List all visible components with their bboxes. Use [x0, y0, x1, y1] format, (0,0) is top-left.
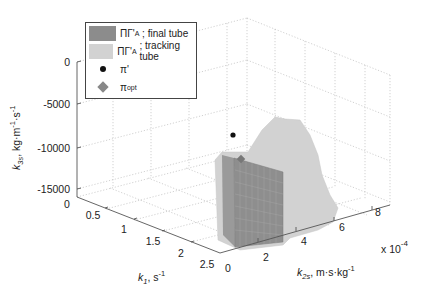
svg-text:-5000: -5000 — [43, 98, 70, 110]
svg-text:6: 6 — [339, 221, 345, 233]
legend-text: ; final tube — [142, 28, 188, 39]
svg-text:1.5: 1.5 — [146, 235, 161, 247]
legend-item-pi-prime: π' — [89, 60, 129, 78]
legend-item-tracking-tube: ΠΓ'A ; tracking tube — [89, 42, 196, 60]
plot-area: 0 -5000 -10000 -15000 0 0.5 1 1.5 2 2.5 … — [0, 0, 426, 299]
svg-text:0: 0 — [64, 198, 70, 210]
svg-text:2: 2 — [178, 247, 184, 259]
legend: ΠΓ'A ; final tube ΠΓ'A ; tracking tube π… — [85, 22, 197, 99]
svg-text:-15000: -15000 — [37, 183, 70, 195]
y-multiplier: x 10-4 — [381, 239, 409, 255]
dot-marker-icon — [89, 66, 116, 72]
svg-text:8: 8 — [375, 206, 381, 218]
diamond-marker-icon — [89, 83, 116, 91]
svg-text:0: 0 — [64, 56, 70, 68]
legend-sub: opt — [127, 84, 137, 91]
legend-text: ; tracking tube — [139, 40, 196, 62]
svg-text:2.5: 2.5 — [200, 258, 215, 270]
svg-text:0.5: 0.5 — [86, 209, 101, 221]
tracking-tube-swatch — [89, 44, 113, 59]
svg-text:0: 0 — [225, 262, 231, 274]
svg-text:2: 2 — [263, 251, 269, 263]
legend-symbol: ΠΓ' — [117, 46, 132, 57]
final-tube-swatch — [89, 26, 116, 41]
legend-symbol: π — [120, 82, 127, 93]
svg-text:4: 4 — [301, 235, 307, 247]
y-axis-label: k2s, m·s·kg-1 — [297, 264, 355, 281]
x-axis-label: k1, s-1 — [138, 269, 165, 286]
z-axis-label: k3s, kg·m-1·s-1 — [8, 106, 25, 170]
legend-sub: A — [132, 48, 137, 55]
svg-text:-10000: -10000 — [37, 142, 70, 154]
legend-item-pi-opt: πopt — [89, 78, 137, 96]
legend-symbol: ΠΓ' — [120, 28, 135, 39]
z-tick-labels: 0 -5000 -10000 -15000 — [37, 56, 70, 195]
legend-symbol: π' — [120, 64, 129, 75]
svg-text:1: 1 — [121, 223, 127, 235]
legend-sub: A — [135, 30, 140, 37]
pi-prime-marker — [230, 132, 235, 137]
x-tick-labels: 0 0.5 1 1.5 2 2.5 — [64, 198, 214, 270]
